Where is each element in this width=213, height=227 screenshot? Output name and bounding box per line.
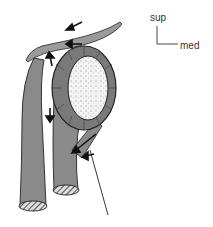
left-tendon-cut [19,201,47,211]
thin-ligament [90,150,108,215]
medial-label: med [180,40,199,51]
glenoid-surface [68,56,108,120]
left-tendon [20,58,46,209]
shoulder-anatomy-illustration [0,0,213,227]
middle-tendon-cut [53,185,79,195]
superior-label: sup [150,12,166,23]
